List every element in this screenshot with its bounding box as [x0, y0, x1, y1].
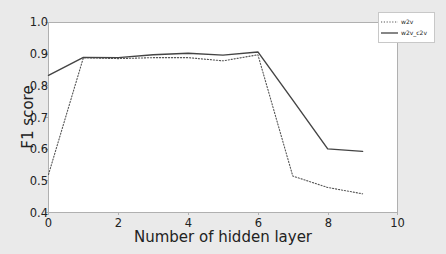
legend-label-w2v: w2v — [401, 18, 413, 26]
chart-figure: 1.0 0.9 0.8 0.7 0.6 0.5 0.4 0 2 4 6 8 10… — [0, 0, 446, 254]
y-tick-label: 1.0 — [14, 15, 48, 29]
legend-entry-w2v-c2v: w2v_c2v — [381, 28, 431, 38]
y-axis-label: F1 score — [19, 47, 37, 187]
axes-background — [48, 22, 398, 212]
legend-entry-w2v: w2v — [381, 17, 431, 27]
legend-line-solid-icon — [381, 29, 398, 37]
legend: w2v w2v_c2v — [378, 12, 435, 43]
legend-label-w2v-c2v: w2v_c2v — [401, 29, 427, 37]
x-axis-label: Number of hidden layer — [48, 228, 398, 246]
legend-line-dotted-icon — [381, 18, 398, 26]
